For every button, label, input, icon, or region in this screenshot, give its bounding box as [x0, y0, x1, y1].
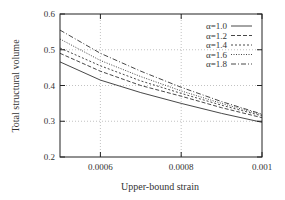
legend-label: α=1.2	[206, 31, 227, 41]
legend-label: α=1.8	[206, 59, 228, 69]
y-tick-label: 0.4	[44, 81, 56, 91]
legend-label: α=1.6	[206, 50, 228, 60]
x-tick-label: 0.0006	[88, 162, 113, 172]
y-tick-label: 0.5	[44, 45, 56, 55]
series-line	[60, 39, 262, 115]
y-tick-label: 0.3	[44, 116, 56, 126]
x-tick-label: 0.001	[252, 162, 272, 172]
line-chart: 0.00060.00080.0010.20.30.40.50.6 α=1.0α=…	[0, 0, 285, 200]
y-tick-label: 0.6	[44, 9, 56, 19]
y-axis-label: Total structural volume	[10, 39, 21, 133]
x-tick-label: 0.0008	[169, 162, 194, 172]
series-line	[60, 48, 262, 116]
legend-label: α=1.4	[206, 40, 228, 50]
y-tick-label: 0.2	[44, 152, 55, 162]
data-series	[60, 30, 262, 122]
x-axis-label: Upper-bound strain	[121, 181, 199, 192]
series-line	[60, 62, 262, 122]
series-line	[60, 30, 262, 114]
legend: α=1.0α=1.2α=1.4α=1.6α=1.8	[206, 21, 252, 69]
legend-label: α=1.0	[206, 21, 228, 31]
